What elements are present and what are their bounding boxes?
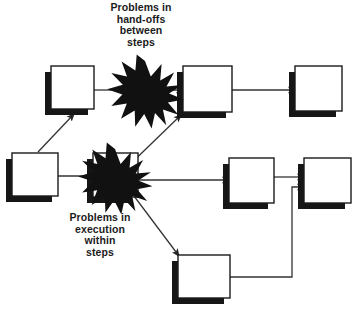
process-box-step-1[interactable] <box>45 66 94 115</box>
process-box-step-2[interactable] <box>177 66 232 118</box>
caption-handoffs: Problems in hand-offs between steps <box>86 2 196 48</box>
process-flow-diagram: Problems in hand-offs between steps Prob… <box>0 0 359 312</box>
process-box-step-3[interactable] <box>289 66 342 117</box>
caption-execution: Problems in execution within steps <box>40 212 160 258</box>
boxes-layer <box>6 66 351 304</box>
process-box-step-4[interactable] <box>6 153 58 202</box>
process-box-step-8[interactable] <box>172 255 230 304</box>
process-box-step-7[interactable] <box>298 158 351 209</box>
process-box-step-6[interactable] <box>223 158 274 209</box>
arrow-step4-to-step1 <box>38 114 74 152</box>
burst-handoffs-icon <box>107 54 184 128</box>
